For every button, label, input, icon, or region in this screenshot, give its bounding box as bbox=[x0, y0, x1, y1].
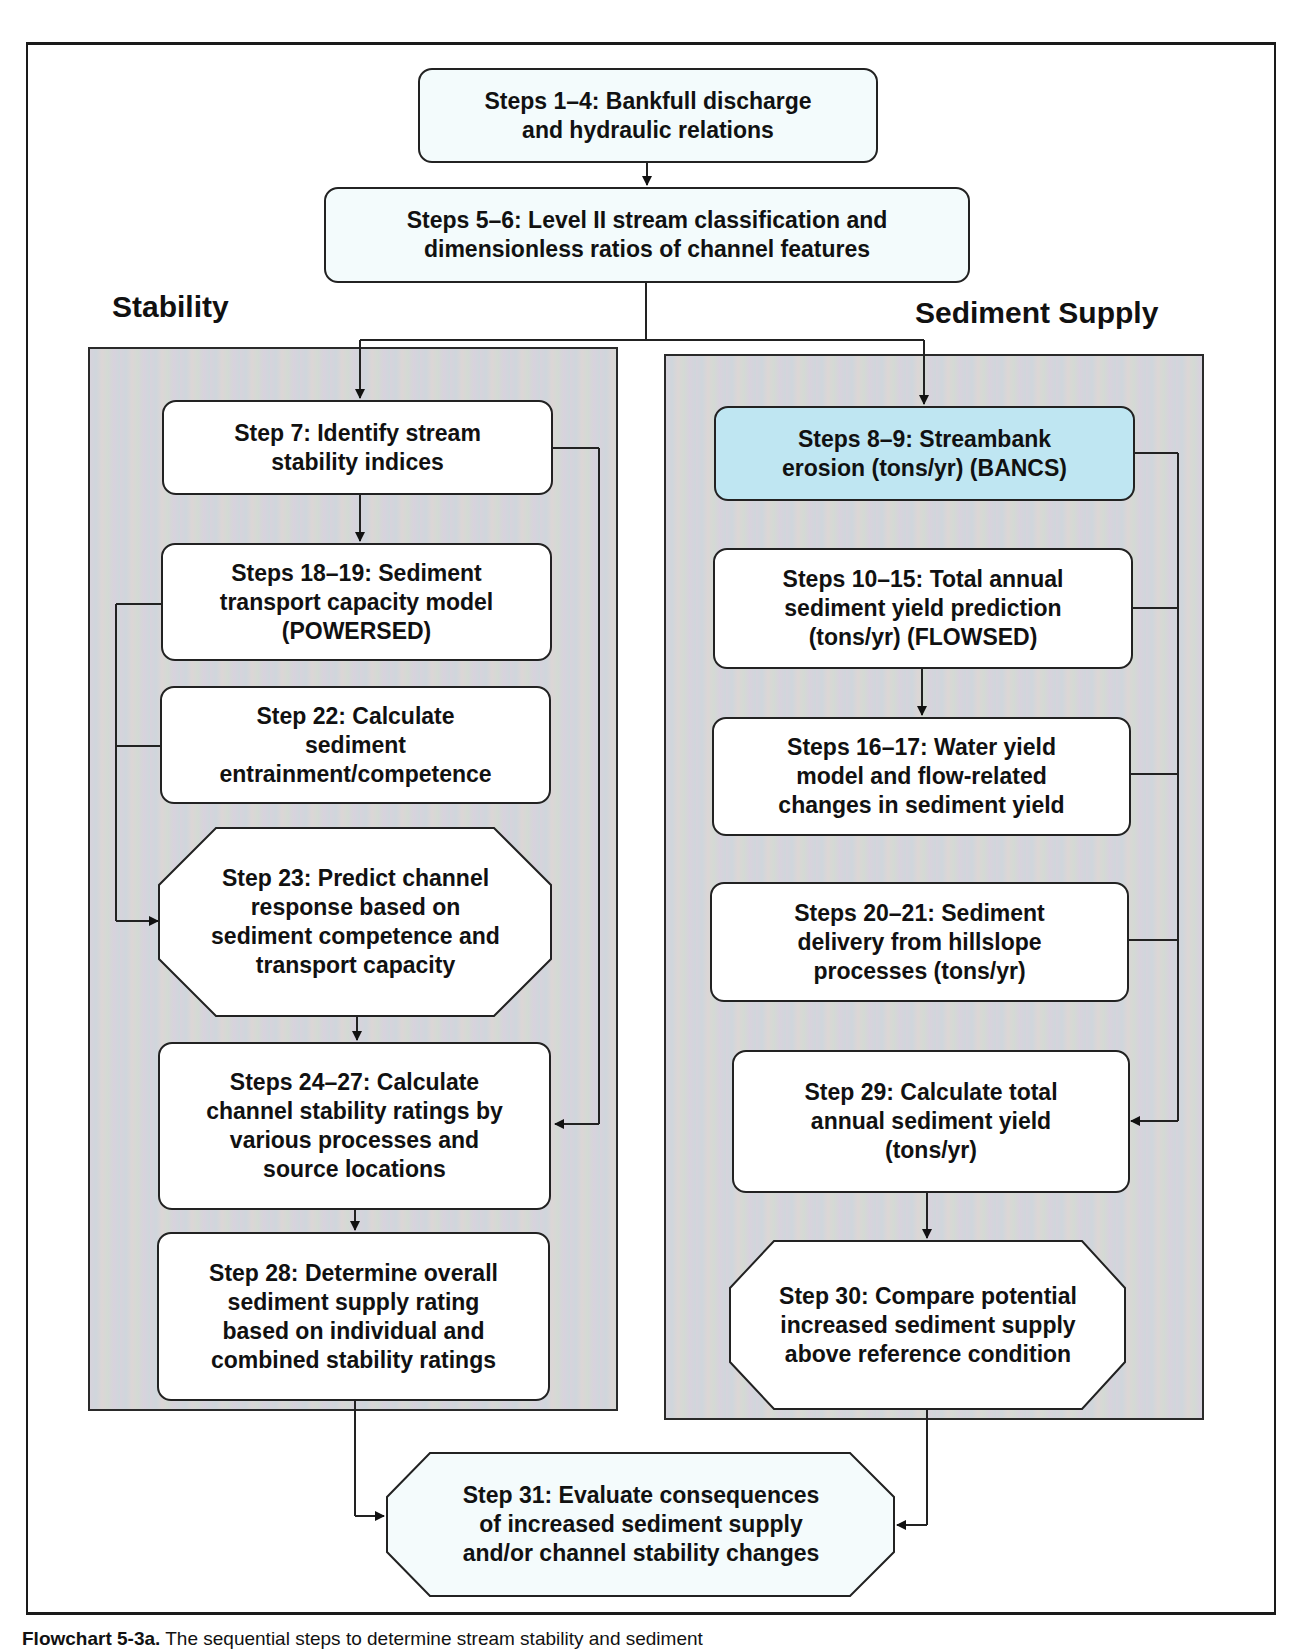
steps-5-6-box: Steps 5–6: Level II stream classificatio… bbox=[324, 187, 970, 283]
step-31-decision: Step 31: Evaluate consequences of increa… bbox=[386, 1452, 896, 1597]
step-23-decision: Step 23: Predict channel response based … bbox=[158, 827, 553, 1017]
steps-1-4-box: Steps 1–4: Bankfull discharge and hydrau… bbox=[418, 68, 878, 163]
steps-8-9-box: Steps 8–9: Streambank erosion (tons/yr) … bbox=[714, 406, 1135, 501]
steps-24-27-box: Steps 24–27: Calculate channel stability… bbox=[158, 1042, 551, 1210]
step-31-label: Step 31: Evaluate consequences of increa… bbox=[386, 1452, 896, 1597]
caption-text: The sequential steps to determine stream… bbox=[165, 1628, 703, 1649]
figure-caption: Flowchart 5-3a. The sequential steps to … bbox=[22, 1628, 703, 1650]
step-30-decision: Step 30: Compare potential increased sed… bbox=[729, 1240, 1127, 1410]
steps-10-15-box: Steps 10–15: Total annual sediment yield… bbox=[713, 548, 1133, 669]
step-28-box: Step 28: Determine overall sediment supp… bbox=[157, 1232, 550, 1401]
steps-20-21-box: Steps 20–21: Sediment delivery from hill… bbox=[710, 882, 1129, 1002]
caption-label: Flowchart 5-3a. bbox=[22, 1628, 160, 1649]
steps-18-19-box: Steps 18–19: Sediment transport capacity… bbox=[161, 543, 552, 661]
step-23-label: Step 23: Predict channel response based … bbox=[158, 827, 553, 1017]
step-29-box: Step 29: Calculate total annual sediment… bbox=[732, 1050, 1130, 1193]
step-30-label: Step 30: Compare potential increased sed… bbox=[729, 1240, 1127, 1410]
step-7-box: Step 7: Identify stream stability indice… bbox=[162, 400, 553, 495]
step-22-box: Step 22: Calculate sediment entrainment/… bbox=[160, 686, 551, 804]
steps-16-17-box: Steps 16–17: Water yield model and flow-… bbox=[712, 717, 1131, 836]
